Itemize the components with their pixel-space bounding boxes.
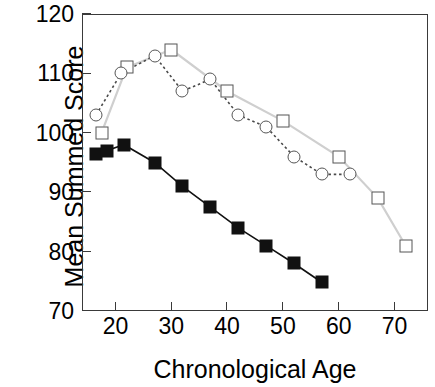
- data-point-filled-squares-4: [176, 180, 189, 193]
- data-point-filled-squares-5: [204, 201, 217, 214]
- y-tick-label-120: 120: [12, 1, 74, 28]
- data-point-open-squares-6: [371, 192, 384, 205]
- y-tick-label-90: 90: [12, 179, 74, 206]
- x-tick-60: [338, 302, 339, 311]
- data-point-filled-squares-8: [288, 257, 301, 270]
- x-tick-40: [226, 302, 227, 311]
- y-tick-70: [82, 310, 91, 311]
- y-tick-120: [82, 13, 91, 14]
- x-tick-label-40: 40: [197, 313, 257, 340]
- data-point-open-circles-6: [260, 120, 273, 133]
- x-tick-70: [394, 302, 395, 311]
- data-point-open-circles-5: [232, 108, 245, 121]
- data-point-filled-squares-9: [315, 276, 328, 289]
- x-tick-label-70: 70: [365, 313, 425, 340]
- x-tick-20: [115, 302, 116, 311]
- x-tick-label-60: 60: [309, 313, 369, 340]
- data-point-open-squares-3: [221, 85, 234, 98]
- data-point-open-squares-2: [165, 43, 178, 56]
- x-tick-30: [171, 302, 172, 311]
- data-point-open-circles-9: [343, 168, 356, 181]
- chart-figure: Mean Summed Score Chronological Age 7080…: [0, 0, 435, 387]
- x-tick-label-20: 20: [85, 313, 145, 340]
- data-point-open-circles-3: [176, 85, 189, 98]
- data-point-open-circles-1: [115, 67, 128, 80]
- y-tick-100: [82, 132, 91, 133]
- x-tick-label-30: 30: [141, 313, 201, 340]
- data-point-open-squares-7: [399, 239, 412, 252]
- y-tick-label-100: 100: [12, 119, 74, 146]
- y-tick-110: [82, 73, 91, 74]
- data-point-open-squares-0: [95, 126, 108, 139]
- data-point-open-circles-4: [204, 73, 217, 86]
- data-point-open-circles-7: [288, 150, 301, 163]
- data-point-open-circles-2: [148, 49, 161, 62]
- y-tick-90: [82, 191, 91, 192]
- data-point-filled-squares-7: [260, 239, 273, 252]
- x-axis-title: Chronological Age: [82, 355, 428, 384]
- data-point-open-circles-0: [89, 108, 102, 121]
- data-point-open-squares-4: [276, 114, 289, 127]
- y-tick-label-70: 70: [12, 298, 74, 325]
- y-tick-label-80: 80: [12, 238, 74, 265]
- y-tick-label-110: 110: [12, 60, 74, 87]
- data-point-open-squares-5: [332, 150, 345, 163]
- data-point-filled-squares-1: [101, 144, 114, 157]
- y-tick-80: [82, 251, 91, 252]
- data-point-filled-squares-2: [117, 138, 130, 151]
- plot-frame: [82, 14, 428, 311]
- data-point-open-circles-8: [315, 168, 328, 181]
- x-tick-label-50: 50: [253, 313, 313, 340]
- data-point-filled-squares-6: [232, 221, 245, 234]
- x-tick-50: [282, 302, 283, 311]
- data-point-filled-squares-3: [148, 156, 161, 169]
